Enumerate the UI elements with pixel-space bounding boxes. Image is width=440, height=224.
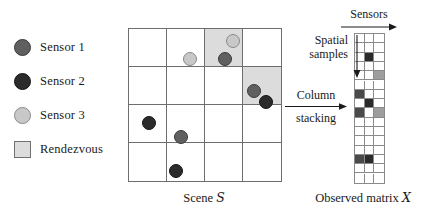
- matrix-cell-empty: [365, 62, 375, 71]
- matrix-cell-filled: [355, 155, 365, 164]
- scene-cell: [129, 29, 167, 67]
- spatial-samples-label-line1: Spatial: [286, 33, 348, 47]
- matrix-caption-text: Observed matrix: [315, 191, 399, 205]
- rendezvous-marker-icon: [14, 141, 31, 158]
- matrix-cell-empty: [374, 164, 384, 173]
- scene-cell: [205, 105, 243, 143]
- legend-item-sensor-3: Sensor 3: [14, 98, 119, 132]
- sensors-annotation: Sensors: [330, 8, 408, 21]
- legend-item-rendezvous: Rendezvous: [14, 132, 119, 166]
- matrix-cell-empty: [374, 90, 384, 99]
- scene-sensor-marker: [183, 52, 197, 66]
- scene-sensor-marker: [174, 130, 188, 144]
- matrix-caption: Observed matrix X: [288, 190, 438, 206]
- spatial-samples-annotation: Spatial samples: [286, 33, 348, 61]
- scene-cell: [167, 67, 205, 105]
- matrix-cell-empty: [374, 62, 384, 71]
- matrix-cell-empty: [365, 127, 375, 136]
- matrix-cell-empty: [355, 174, 365, 183]
- sensor-2-marker-icon: [14, 73, 31, 90]
- matrix-cell-empty: [365, 118, 375, 127]
- column-stacking-label-line1: Column: [283, 88, 349, 102]
- matrix-cell-empty: [365, 34, 375, 43]
- scene-sensor-marker: [226, 34, 240, 48]
- legend: Sensor 1 Sensor 2 Sensor 3 Rendezvous: [14, 30, 119, 166]
- matrix-cell-empty: [355, 118, 365, 127]
- matrix-cell-empty: [374, 174, 384, 183]
- matrix-cell-empty: [374, 146, 384, 155]
- matrix-cell-empty: [365, 164, 375, 173]
- scene-cell: [205, 67, 243, 105]
- spatial-samples-label-line2: samples: [286, 47, 348, 61]
- spatial-samples-arrow-icon: [352, 33, 362, 79]
- matrix-cell-empty: [374, 53, 384, 62]
- legend-label-sensor-3: Sensor 3: [40, 108, 85, 123]
- matrix-cell-empty: [365, 81, 375, 90]
- matrix-cell-filled: [355, 108, 365, 117]
- scene-caption-text: Scene: [183, 191, 213, 205]
- scene-cell: [205, 143, 243, 181]
- legend-item-sensor-2: Sensor 2: [14, 64, 119, 98]
- column-stacking-arrow-icon: [283, 102, 349, 111]
- matrix-cell-empty: [374, 34, 384, 43]
- matrix-cell-empty: [374, 99, 384, 108]
- column-stacking-label-line2: stacking: [283, 111, 349, 125]
- matrix-cell-empty: [355, 81, 365, 90]
- matrix-cell-empty: [365, 108, 375, 117]
- legend-item-sensor-1: Sensor 1: [14, 30, 119, 64]
- matrix-cell-filled: [374, 71, 384, 80]
- scene-sensor-marker: [247, 84, 261, 98]
- scene-cell: [243, 105, 281, 143]
- legend-label-sensor-2: Sensor 2: [40, 74, 85, 89]
- matrix-cell-filled: [365, 53, 375, 62]
- matrix-cell-empty: [374, 136, 384, 145]
- matrix-cell-empty: [355, 164, 365, 173]
- sensors-arrow-icon: [339, 22, 399, 32]
- matrix-cell-empty: [374, 127, 384, 136]
- sensors-annotation-label: Sensors: [350, 7, 387, 21]
- matrix-cell-empty: [365, 136, 375, 145]
- sensor-1-marker-icon: [14, 39, 31, 56]
- matrix-cell-empty: [374, 43, 384, 52]
- matrix-cell-filled: [355, 90, 365, 99]
- matrix-caption-symbol: X: [402, 190, 411, 205]
- scene-grid: [128, 28, 282, 182]
- scene-cell: [243, 29, 281, 67]
- scene-cell: [129, 143, 167, 181]
- matrix-cell-empty: [374, 81, 384, 90]
- matrix-cell-empty: [374, 118, 384, 127]
- scene-sensor-marker: [218, 52, 232, 66]
- scene-caption: Scene S: [128, 190, 280, 206]
- sensor-3-marker-icon: [14, 107, 31, 124]
- matrix-cell-filled: [374, 108, 384, 117]
- matrix-cell-empty: [365, 43, 375, 52]
- matrix-cell-filled: [365, 155, 375, 164]
- matrix-cell-empty: [365, 90, 375, 99]
- scene-caption-symbol: S: [216, 190, 225, 205]
- scene-sensor-marker: [169, 164, 183, 178]
- matrix-cell-empty: [365, 71, 375, 80]
- matrix-cell-empty: [374, 155, 384, 164]
- legend-label-sensor-1: Sensor 1: [40, 40, 85, 55]
- figure-root: Sensor 1 Sensor 2 Sensor 3 Rendezvous Sc…: [0, 0, 440, 224]
- scene-cell: [243, 143, 281, 181]
- legend-label-rendezvous: Rendezvous: [40, 142, 103, 157]
- matrix-cell-empty: [355, 127, 365, 136]
- scene-panel: [128, 28, 282, 182]
- scene-sensor-marker: [142, 116, 156, 130]
- scene-sensor-marker: [259, 95, 273, 109]
- matrix-cell-empty: [355, 99, 365, 108]
- matrix-cell-empty: [365, 174, 375, 183]
- scene-cell: [129, 67, 167, 105]
- column-stacking-annotation: Column stacking: [283, 88, 349, 125]
- matrix-cell-empty: [355, 136, 365, 145]
- matrix-cell-empty: [355, 146, 365, 155]
- matrix-cell-empty: [365, 146, 375, 155]
- matrix-cell-filled: [365, 99, 375, 108]
